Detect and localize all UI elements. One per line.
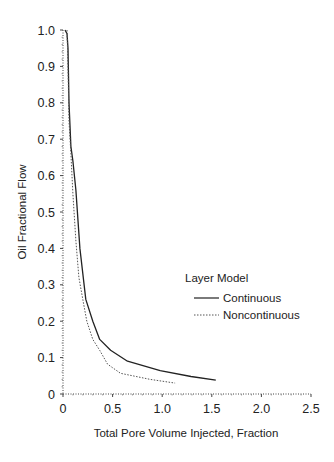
y-tick-label: 0.5 xyxy=(38,206,55,220)
y-tick-label: 0.8 xyxy=(38,96,55,110)
y-tick-label: 1.0 xyxy=(38,24,55,38)
x-tick-label: 1.5 xyxy=(203,402,220,416)
x-axis: 00.51.01.52.02.5 xyxy=(60,394,320,416)
y-tick-label: 0.3 xyxy=(38,278,55,292)
x-tick-label: 2.5 xyxy=(302,402,319,416)
y-tick-label: 0.1 xyxy=(38,351,55,365)
y-tick-label: 0.7 xyxy=(38,133,55,147)
y-axis-title: Oil Fractional Flow xyxy=(16,164,28,260)
x-axis-title: Total Pore Volume Injected, Fraction xyxy=(94,427,279,439)
x-tick-label: 0.5 xyxy=(104,402,121,416)
y-tick-label: 0.4 xyxy=(38,242,55,256)
series-continuous-line xyxy=(65,30,216,380)
legend: Layer Model Continuous Noncontinuous xyxy=(185,272,300,321)
chart: 00.10.20.30.40.50.60.70.80.91.0 00.51.01… xyxy=(0,0,334,462)
y-tick-label: 0.6 xyxy=(38,169,55,183)
x-tick-label: 1.0 xyxy=(154,402,171,416)
x-tick-label: 0 xyxy=(60,402,67,416)
plot-area xyxy=(65,30,216,383)
y-tick-label: 0 xyxy=(48,388,55,402)
legend-title: Layer Model xyxy=(185,272,248,284)
y-axis: 00.10.20.30.40.50.60.70.80.91.0 xyxy=(38,24,63,402)
y-tick-label: 0.2 xyxy=(38,315,55,329)
legend-label-noncontinuous: Noncontinuous xyxy=(223,309,300,321)
legend-label-continuous: Continuous xyxy=(223,292,281,304)
y-tick-label: 0.9 xyxy=(38,60,55,74)
series-noncontinuous-line xyxy=(67,30,175,383)
x-tick-label: 2.0 xyxy=(253,402,270,416)
